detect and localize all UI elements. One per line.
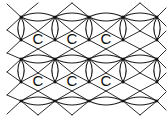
atom-vertex	[122, 58, 125, 61]
atom-label-carbon: C	[101, 30, 112, 47]
atom-vertex	[122, 16, 125, 19]
atom-label-carbon: C	[33, 72, 44, 89]
lattice-canvas: CCCCCC	[0, 0, 168, 120]
atom-vertex	[122, 39, 125, 42]
atom-vertex	[20, 39, 23, 42]
atom-vertex	[88, 58, 91, 61]
atom-vertex	[122, 100, 125, 103]
atom-vertex	[54, 100, 57, 103]
figure-background	[0, 0, 168, 120]
atom-vertex	[20, 58, 23, 61]
atom-vertex	[156, 58, 159, 61]
atom-vertex	[20, 16, 23, 19]
atom-vertex	[54, 16, 57, 19]
atom-vertex	[20, 81, 23, 84]
atom-label-carbon: C	[33, 30, 44, 47]
atom-vertex	[54, 39, 57, 42]
atom-vertex	[54, 58, 57, 61]
atom-vertex	[122, 81, 125, 84]
atom-vertex	[54, 81, 57, 84]
atom-label-carbon: C	[101, 72, 112, 89]
atom-vertex	[156, 100, 159, 103]
lattice-figure: CCCCCC	[0, 0, 168, 120]
atom-vertex	[156, 16, 159, 19]
atom-vertex	[88, 39, 91, 42]
atom-vertex	[156, 81, 159, 84]
atom-vertex	[88, 81, 91, 84]
atom-label-carbon: C	[67, 30, 78, 47]
atom-label-carbon: C	[67, 72, 78, 89]
atom-vertex	[88, 16, 91, 19]
atom-vertex	[20, 100, 23, 103]
atom-vertex	[88, 100, 91, 103]
atom-vertex	[156, 39, 159, 42]
